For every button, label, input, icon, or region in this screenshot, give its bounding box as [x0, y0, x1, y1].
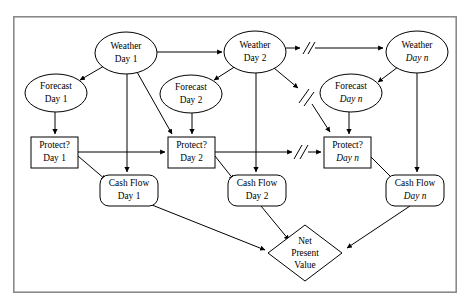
- node-weather-day-1-line1: Weather: [111, 41, 143, 51]
- node-weather-day-n-line1: Weather: [402, 40, 434, 50]
- node-forecast-day-1-line2: Day 1: [45, 94, 68, 104]
- node-net-present-value-line2: Present: [291, 248, 319, 258]
- node-protect-day-2-line1: Protect?: [176, 140, 207, 150]
- node-forecast-day-n-line1: Forecast: [335, 81, 367, 91]
- node-net-present-value-line3: Value: [294, 260, 315, 270]
- node-weather-day-2[interactable]: Weather Day 2: [224, 31, 286, 73]
- node-protect-day-2-line2: Day 2: [180, 153, 203, 163]
- node-cash-flow-day-1-line1: Cash Flow: [109, 178, 150, 188]
- node-weather-day-2-line1: Weather: [240, 40, 272, 50]
- node-weather-day-1[interactable]: Weather Day 1: [95, 32, 157, 74]
- node-cash-flow-day-1[interactable]: Cash Flow Day 1: [100, 175, 158, 206]
- node-cash-flow-day-n-line1: Cash Flow: [395, 178, 436, 188]
- node-protect-day-2[interactable]: Protect? Day 2: [168, 137, 215, 168]
- diagram-canvas: Weather Day 1 Weather Day 2 Weather Day …: [0, 0, 472, 306]
- node-weather-day-2-line2: Day 2: [244, 53, 267, 63]
- node-protect-day-1-line2: Day 1: [43, 153, 66, 163]
- node-forecast-day-n-line2: Day n: [339, 94, 363, 104]
- node-protect-day-1[interactable]: Protect? Day 1: [31, 137, 78, 168]
- node-net-present-value-line1: Net: [298, 236, 312, 246]
- node-forecast-day-1[interactable]: Forecast Day 1: [25, 74, 87, 112]
- node-protect-day-n[interactable]: Protect? Day n: [324, 137, 371, 168]
- node-forecast-day-2-line1: Forecast: [175, 82, 207, 92]
- influence-diagram: Weather Day 1 Weather Day 2 Weather Day …: [0, 0, 472, 306]
- node-forecast-day-2[interactable]: Forecast Day 2: [160, 75, 222, 113]
- node-protect-day-1-line1: Protect?: [39, 140, 70, 150]
- node-cash-flow-day-n-line2: Day n: [403, 191, 427, 201]
- node-cash-flow-day-2[interactable]: Cash Flow Day 2: [228, 175, 286, 206]
- node-weather-day-1-line2: Day 1: [115, 54, 138, 64]
- node-cash-flow-day-1-line2: Day 1: [118, 191, 141, 201]
- node-protect-day-n-line2: Day n: [335, 153, 359, 163]
- node-cash-flow-day-n[interactable]: Cash Flow Day n: [386, 175, 444, 206]
- node-protect-day-n-line1: Protect?: [332, 140, 363, 150]
- node-cash-flow-day-2-line2: Day 2: [246, 191, 269, 201]
- node-forecast-day-1-line1: Forecast: [40, 81, 72, 91]
- node-weather-day-n[interactable]: Weather Day n: [386, 31, 448, 73]
- node-forecast-day-n[interactable]: Forecast Day n: [320, 74, 382, 112]
- node-cash-flow-day-2-line1: Cash Flow: [237, 178, 278, 188]
- node-forecast-day-2-line2: Day 2: [180, 95, 203, 105]
- node-weather-day-n-line2: Day n: [405, 53, 429, 63]
